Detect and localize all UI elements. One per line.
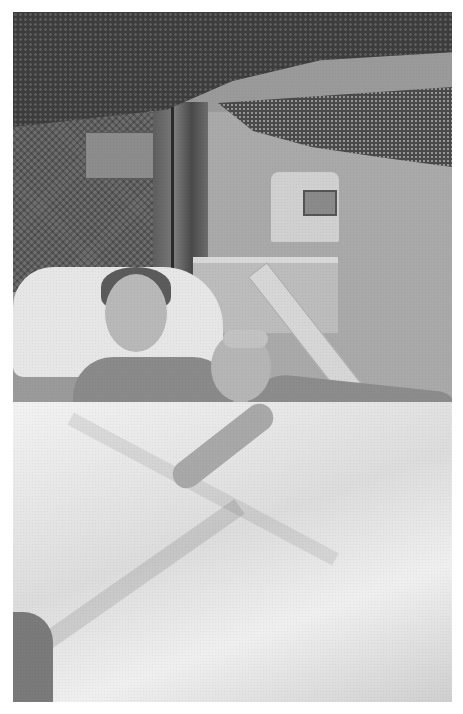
photograph	[13, 12, 452, 702]
curtain-seam	[171, 107, 174, 287]
resting-hand	[223, 330, 268, 348]
monitor-screen	[303, 190, 337, 216]
bed-edge	[13, 612, 53, 702]
adult-patient-head	[105, 274, 167, 352]
